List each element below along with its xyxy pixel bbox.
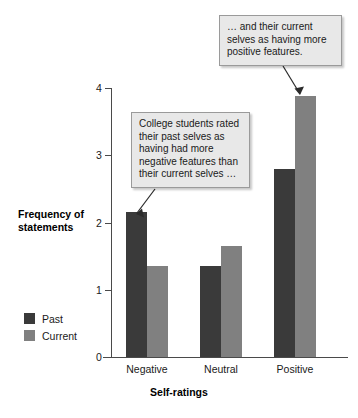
annotation-callout-negative: College students rated their past selves… bbox=[131, 112, 250, 188]
bar-chart-figure: 01234 NegativeNeutralPositive Frequency … bbox=[0, 0, 358, 418]
annotation-callout-positive: … and their current selves as having mor… bbox=[219, 15, 342, 66]
